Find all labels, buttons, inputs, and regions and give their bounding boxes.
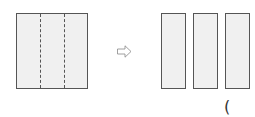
right-arrow-icon [117, 45, 132, 58]
square-divided [16, 13, 88, 89]
rectangle-strip-1 [161, 13, 186, 89]
rectangle-strip-2 [193, 13, 218, 89]
rectangle-strip-3 [225, 13, 250, 89]
dashed-line [40, 14, 41, 88]
answer-parenthesis: ( [224, 98, 230, 116]
dashed-line [64, 14, 65, 88]
